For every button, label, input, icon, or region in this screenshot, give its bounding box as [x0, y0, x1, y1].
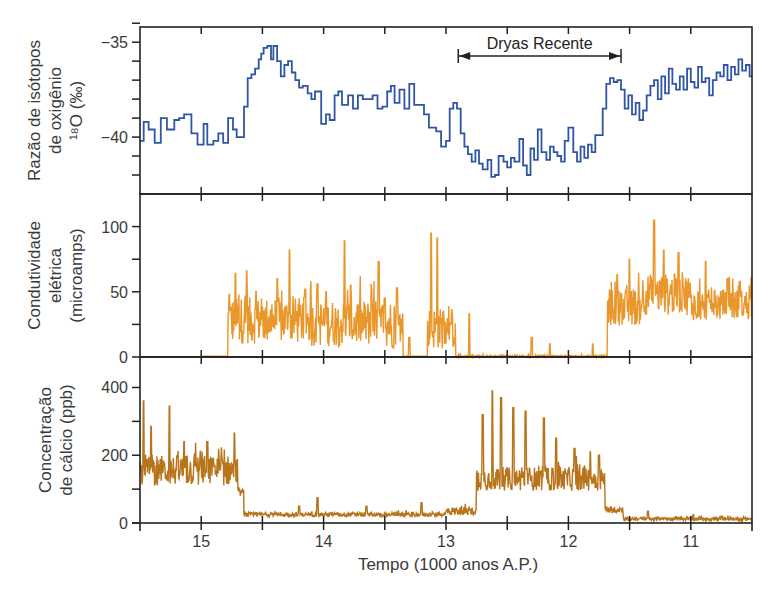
y-tick-label-calcium: 400 — [101, 379, 128, 396]
y-axis-title-oxygen: Razão de isótopos — [25, 40, 44, 181]
x-tick-label: 14 — [315, 533, 333, 550]
panel-frame-calcium — [140, 357, 752, 523]
y-tick-label-conductivity: 100 — [101, 219, 128, 236]
y-tick-label-conductivity: 50 — [110, 284, 128, 301]
y-axis-title-oxygen: ¹⁸O (‰) — [67, 81, 86, 140]
panel-conductivity: 050100Condutividadeelétrica(microamps) — [25, 194, 752, 366]
x-tick-label: 13 — [437, 533, 455, 550]
y-axis-title-calcium: Concentração — [36, 387, 55, 493]
x-tick-label: 12 — [560, 533, 578, 550]
panel-calcium: 0200400Concentraçãode cálcio (ppb) — [36, 357, 752, 532]
annotation-arrowhead-right — [609, 52, 620, 60]
y-axis-title-conductivity: (microamps) — [67, 228, 86, 322]
x-axis-title: Tempo (1000 anos A.P.) — [358, 555, 538, 574]
y-axis-title-oxygen: de oxigênio — [46, 67, 65, 154]
y-tick-label-oxygen: −40 — [101, 129, 128, 146]
series-line-conductivity — [140, 220, 752, 357]
y-axis-title-calcium: de cálcio (ppb) — [57, 384, 76, 496]
series-line-oxygen — [140, 46, 752, 177]
panel-frame-oxygen — [140, 27, 752, 194]
panel-oxygen: −35−40Razão de isótoposde oxigênio¹⁸O (‰… — [25, 23, 752, 194]
y-tick-label-calcium: 200 — [101, 447, 128, 464]
series-line-calcium — [140, 391, 752, 521]
annotation-label: Dryas Recente — [487, 35, 593, 52]
y-tick-label-oxygen: −35 — [101, 34, 128, 51]
y-axis-title-conductivity: Condutividade — [25, 221, 44, 330]
y-axis-title-conductivity: elétrica — [46, 248, 65, 303]
y-tick-label-calcium: 0 — [119, 515, 128, 532]
y-tick-label-conductivity: 0 — [119, 349, 128, 366]
ice-core-chart: −35−40Razão de isótoposde oxigênio¹⁸O (‰… — [0, 0, 779, 603]
annotation-arrowhead-left — [459, 52, 470, 60]
x-tick-label: 11 — [682, 533, 699, 550]
x-tick-label: 15 — [192, 533, 210, 550]
